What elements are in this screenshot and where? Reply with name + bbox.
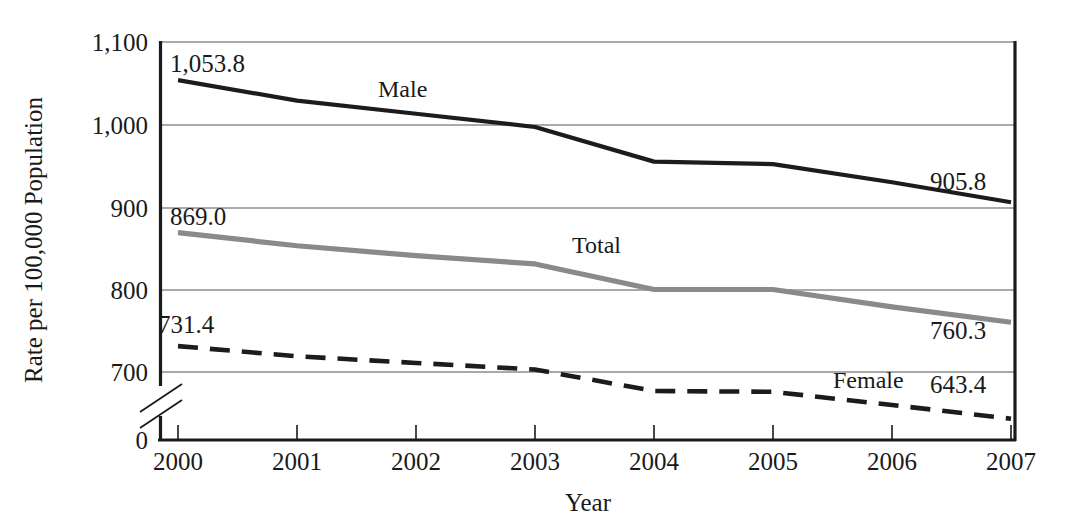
x-tick-2003: 2003: [510, 448, 560, 475]
gridlines: [160, 42, 1016, 372]
x-tick-2001: 2001: [272, 448, 322, 475]
y-tick-0: 0: [136, 427, 149, 454]
y-tick-700: 700: [111, 359, 149, 386]
x-tick-2005: 2005: [748, 448, 798, 475]
x-tick-marks: [178, 425, 1011, 440]
series-label-total: Total: [572, 232, 621, 258]
value-label-male-end: 905.8: [930, 168, 986, 195]
x-tick-2000: 2000: [153, 448, 203, 475]
y-tick-1100: 1,100: [92, 29, 148, 56]
x-tick-2004: 2004: [629, 448, 680, 475]
x-axis-title: Year: [565, 489, 612, 516]
y-tick-800: 800: [111, 277, 149, 304]
value-label-female-end: 643.4: [930, 371, 987, 398]
y-tick-1000: 1,000: [92, 112, 148, 139]
x-tick-2007: 2007: [986, 448, 1036, 475]
y-tick-labels: 1,100 1,000 900 800 700 0: [92, 29, 148, 454]
x-tick-labels: 2000 2001 2002 2003 2004 2005 2006 2007: [153, 448, 1036, 475]
series-line-male: [178, 80, 1011, 202]
series-label-female: Female: [833, 367, 904, 393]
value-label-male-start: 1,053.8: [170, 50, 245, 77]
series-label-male: Male: [378, 76, 427, 102]
y-tick-900: 900: [111, 195, 149, 222]
x-tick-2006: 2006: [867, 448, 917, 475]
x-tick-2002: 2002: [391, 448, 441, 475]
y-axis-title: Rate per 100,000 Population: [20, 96, 47, 383]
line-chart: Rate per 100,000 Population 1,100 1,000 …: [0, 0, 1077, 529]
value-label-total-start: 869.0: [170, 203, 226, 230]
value-label-total-end: 760.3: [930, 317, 986, 344]
value-label-female-start: 731.4: [158, 311, 215, 338]
chart-canvas: Rate per 100,000 Population 1,100 1,000 …: [0, 0, 1077, 529]
